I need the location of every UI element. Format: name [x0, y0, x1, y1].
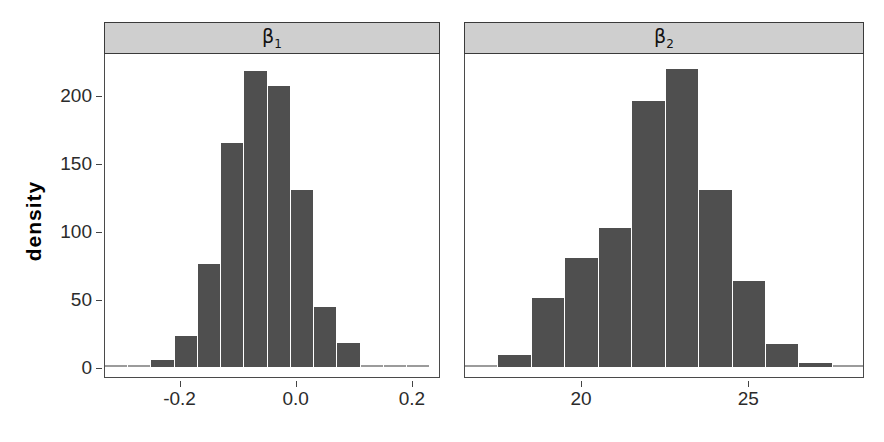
panel-beta2: β2 2025 [464, 22, 864, 380]
histogram-bar [105, 365, 128, 367]
histogram-bar [465, 365, 498, 367]
strip-label-beta1-sub: 1 [274, 36, 282, 50]
histogram-bar [407, 365, 430, 367]
histogram-bar [766, 344, 799, 367]
y-axis-tick-label: 0 [81, 358, 96, 377]
strip-label-beta1: β1 [262, 27, 282, 50]
y-axis-tick-mark [96, 232, 102, 233]
y-axis-tick-mark [96, 96, 102, 97]
y-axis-tick-label: 200 [60, 86, 96, 105]
x-axis-tick-label: 25 [738, 389, 759, 408]
x-axis-tick-mark [581, 381, 582, 387]
histogram-bar [833, 365, 864, 367]
strip-header-beta1: β1 [104, 22, 440, 54]
plot-area-beta1 [104, 54, 440, 378]
plot-area-beta2 [464, 54, 864, 378]
bars-beta2 [465, 54, 863, 377]
histogram-bar [244, 71, 267, 367]
x-axis-tick-label: -0.2 [163, 389, 196, 408]
histogram-bar [799, 363, 832, 367]
histogram-figure: density 050100150200 β1 -0.20.00.2 β2 20… [0, 0, 884, 442]
histogram-bar [599, 228, 632, 367]
x-axis-beta2: 2025 [464, 381, 864, 421]
histogram-bar [314, 307, 337, 367]
strip-label-beta2-sub: 2 [666, 36, 674, 50]
histogram-bar [532, 298, 565, 367]
y-axis-label: density [14, 0, 54, 442]
strip-label-beta1-base: β [262, 25, 274, 47]
x-axis-tick-label: 0.2 [399, 389, 425, 408]
histogram-bar [221, 143, 244, 367]
histogram-bar [268, 86, 291, 367]
histogram-bar [666, 69, 699, 367]
x-axis-beta1: -0.20.00.2 [104, 381, 440, 421]
y-axis-tick-mark [96, 164, 102, 165]
histogram-bar [632, 101, 665, 367]
histogram-bar [733, 281, 766, 367]
histogram-bar [128, 365, 151, 367]
histogram-bar [175, 336, 198, 367]
y-axis-tick-mark [96, 300, 102, 301]
histogram-bar [565, 258, 598, 367]
histogram-bar [198, 264, 221, 367]
histogram-bar [498, 355, 531, 367]
y-axis: 050100150200 [56, 62, 102, 380]
histogram-bar [291, 190, 314, 367]
strip-label-beta2-base: β [654, 25, 666, 47]
strip-label-beta2: β2 [654, 27, 674, 50]
histogram-bar [699, 190, 732, 367]
y-axis-tick-label: 150 [60, 154, 96, 173]
panel-beta1: β1 -0.20.00.2 [104, 22, 440, 380]
y-axis-tick-mark [96, 368, 102, 369]
x-axis-tick-mark [180, 381, 181, 387]
x-axis-tick-mark [748, 381, 749, 387]
x-axis-tick-label: 0.0 [282, 389, 308, 408]
y-axis-tick-label: 50 [71, 290, 96, 309]
y-axis-tick-label: 100 [60, 222, 96, 241]
x-axis-tick-label: 20 [570, 389, 591, 408]
strip-header-beta2: β2 [464, 22, 864, 54]
x-axis-tick-mark [296, 381, 297, 387]
histogram-bar [361, 365, 384, 367]
histogram-bar [337, 343, 360, 367]
y-axis-label-text: density [22, 181, 46, 262]
histogram-bar [384, 365, 407, 367]
bars-beta1 [105, 54, 439, 377]
histogram-bar [151, 360, 174, 367]
x-axis-tick-mark [412, 381, 413, 387]
